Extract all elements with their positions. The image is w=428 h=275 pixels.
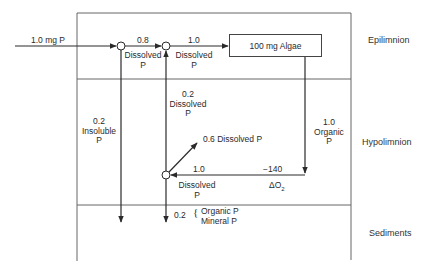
external-load-label: 1.0 mg P xyxy=(31,36,65,46)
brace: { xyxy=(193,207,198,217)
oxygen-symbol: ΔO2 xyxy=(269,181,285,194)
flow-0.8-value: 0.8 xyxy=(137,36,149,46)
flow-to-algae-label: Dissolved P xyxy=(174,51,214,70)
zone-sediments: Sediments xyxy=(369,229,412,239)
recycle-label: 0.6 Dissolved P xyxy=(203,135,262,145)
algae-label: 100 mg Algae xyxy=(230,35,321,57)
junction-node-2 xyxy=(162,42,170,50)
zone-hypolimnion: Hypolimnion xyxy=(362,138,412,148)
organic-settling-label: 1.0 Organic P xyxy=(310,118,348,147)
sediment-burial-label: Organic P Mineral P xyxy=(201,207,239,226)
junction-node-1 xyxy=(117,42,125,50)
insoluble-label: 0.2 Insoluble P xyxy=(79,117,119,146)
upward-dissolved-label: 0.2 Dissolved P xyxy=(169,90,207,119)
junction-node-3 xyxy=(162,171,170,179)
oxygen-value: −140 xyxy=(263,165,282,175)
regeneration-value: 1.0 xyxy=(193,165,205,175)
algae-box: 100 mg Algae xyxy=(229,34,322,57)
sediment-burial-value: 0.2 xyxy=(174,211,186,221)
regeneration-label: Dissolved P xyxy=(177,181,217,200)
zone-epilimnion: Epilimnion xyxy=(368,36,410,46)
flow-0.8-label: Dissolved P xyxy=(124,51,162,70)
flow-to-algae-value: 1.0 xyxy=(188,36,200,46)
